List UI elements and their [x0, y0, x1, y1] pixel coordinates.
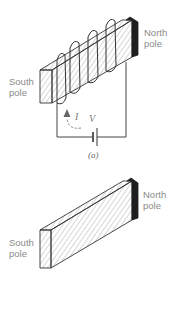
panel-b [40, 178, 138, 268]
south-label-line2: pole [9, 249, 34, 260]
north-label-line2: pole [143, 201, 166, 212]
bar-front-face [51, 181, 132, 268]
bar-south-end-face [40, 70, 52, 103]
south-pole-label-a: South pole [9, 77, 34, 98]
south-label-line2: pole [9, 88, 34, 99]
bar-south-end-face [40, 230, 51, 268]
north-pole-label-b: North pole [143, 190, 166, 211]
south-label-line1: South [9, 77, 34, 88]
north-label-line1: North [144, 28, 167, 39]
panel-a-caption: (a) [88, 150, 99, 160]
current-arrow-icon [64, 109, 82, 128]
voltage-symbol: V [89, 113, 95, 124]
south-pole-label-b: South pole [9, 238, 34, 259]
north-label-line1: North [143, 190, 166, 201]
north-pole-label-a: North pole [144, 28, 167, 49]
north-label-line2: pole [144, 39, 167, 50]
current-symbol: I [75, 111, 78, 122]
panel-a [40, 17, 138, 146]
south-label-line1: South [9, 238, 34, 249]
battery-icon [93, 128, 97, 146]
